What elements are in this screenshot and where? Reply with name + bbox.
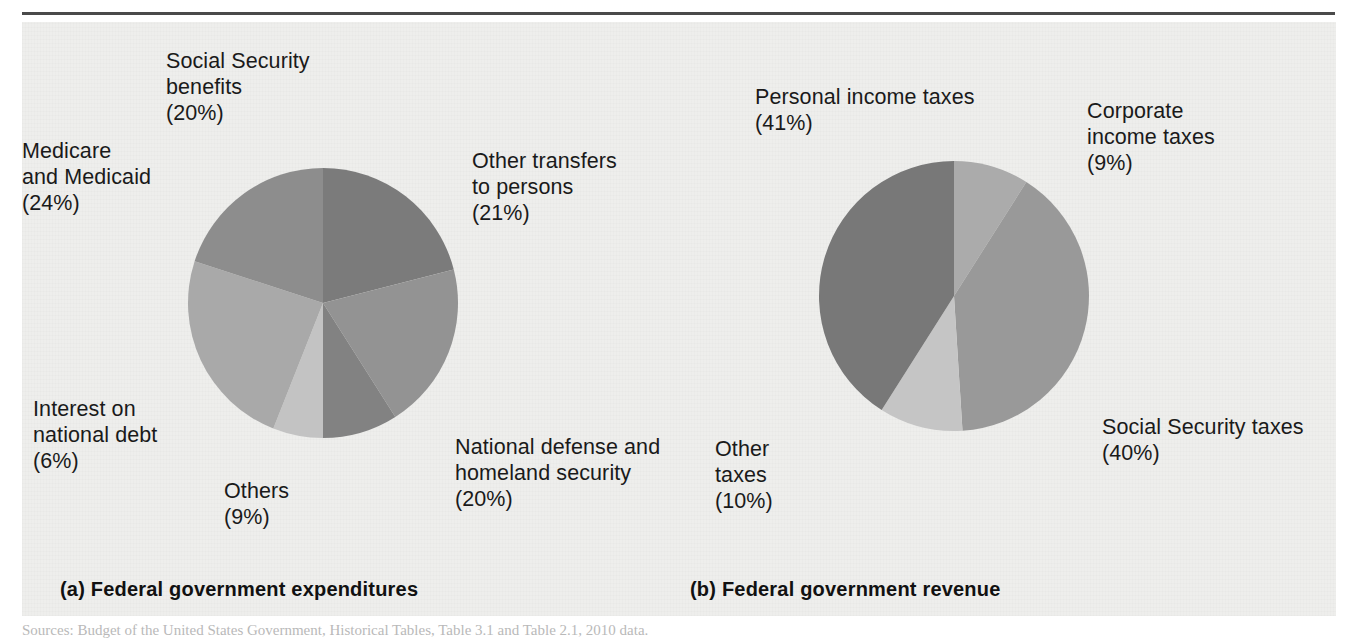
figure-top-rule [22,12,1335,15]
label-other-taxes: Other taxes (10%) [715,436,773,514]
label-national-defense-homeland-security: National defense and homeland security (… [455,434,660,512]
label-corporate-income-taxes: Corporate income taxes (9%) [1087,98,1215,176]
source-note: Sources: Budget of the United States Gov… [22,622,1336,643]
label-medicare-and-medicaid: Medicare and Medicaid (24%) [22,138,151,216]
caption-panel-b: (b) Federal government revenue [690,578,1001,601]
pie-b-slices [819,161,1089,431]
label-others: Others (9%) [224,478,289,530]
pie-chart-revenue [818,160,1090,432]
label-interest-on-national-debt: Interest on national debt (6%) [33,396,157,474]
caption-panel-a: (a) Federal government expenditures [60,578,418,601]
label-social-security-taxes: Social Security taxes (40%) [1102,414,1304,466]
pie-a-slices [188,168,458,438]
label-social-security-benefits: Social Security benefits (20%) [166,48,310,126]
label-personal-income-taxes: Personal income taxes (41%) [755,84,975,136]
figure-container: Social Security benefits (20%) Medicare … [0,0,1353,643]
pie-chart-expenditures [187,167,459,439]
label-other-transfers-to-persons: Other transfers to persons (21%) [472,148,617,226]
